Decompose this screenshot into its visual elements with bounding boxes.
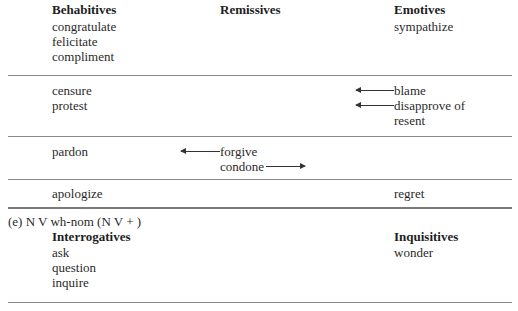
- word-forgive: forgive: [220, 144, 257, 159]
- word-resent: resent: [394, 113, 425, 128]
- section-bottom-rule: [8, 302, 512, 303]
- word-blame: blame: [394, 83, 426, 98]
- row-divider: [8, 136, 512, 137]
- word-censure: censure: [52, 83, 92, 98]
- arrow-right-icon: [266, 166, 305, 167]
- header-interrogatives: Interrogatives: [52, 229, 130, 245]
- word-congratulate: congratulate: [52, 19, 116, 34]
- arrow-left-icon: [356, 105, 394, 106]
- header-behabitives: Behabitives: [52, 2, 116, 18]
- word-condone: condone: [220, 159, 264, 174]
- word-question: question: [52, 260, 96, 275]
- header-remissives: Remissives: [220, 2, 281, 18]
- row-divider: [8, 179, 512, 180]
- word-pardon: pardon: [52, 144, 88, 159]
- row-divider: [8, 75, 512, 76]
- header-inquisitives: Inquisitives: [394, 229, 458, 245]
- table-bottom-rule: [8, 207, 512, 209]
- word-sympathize: sympathize: [394, 19, 453, 34]
- word-felicitate: felicitate: [52, 34, 97, 49]
- word-inquire: inquire: [52, 275, 89, 290]
- word-compliment: compliment: [52, 49, 114, 64]
- word-ask: ask: [52, 245, 69, 260]
- arrow-left-icon: [181, 151, 220, 152]
- word-protest: protest: [52, 98, 87, 113]
- section-e-label: (e) N V wh-nom (N V + ): [8, 214, 141, 229]
- word-regret: regret: [394, 186, 424, 201]
- word-apologize: apologize: [52, 186, 103, 201]
- word-wonder: wonder: [394, 245, 433, 260]
- header-emotives: Emotives: [394, 2, 445, 18]
- arrow-left-icon: [356, 90, 394, 91]
- word-disapprove-of: disapprove of: [394, 98, 465, 113]
